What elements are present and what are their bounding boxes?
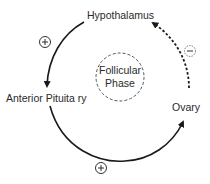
ovary-label: Ovary [172, 101, 200, 113]
hpo-axis-diagram: Hypothalamus Anterior Pituita ry Ovary F… [0, 0, 210, 184]
follicular-phase-line2: Phase [95, 77, 145, 90]
positive-feedback-icon [40, 37, 51, 48]
negative-feedback-icon [185, 46, 196, 57]
follicular-phase-line1: Follicular [95, 64, 145, 77]
positive-feedback-icon [96, 163, 107, 174]
arrow-pituitary-to-ovary [50, 106, 183, 161]
follicular-phase-label: Follicular Phase [95, 64, 145, 90]
anterior-pituitary-label: Anterior Pituita ry [6, 92, 87, 104]
arrow-ovary-to-hypothalamus [153, 23, 189, 88]
hypothalamus-label: Hypothalamus [87, 9, 154, 21]
arrow-hypothalamus-to-pituitary [47, 22, 84, 86]
